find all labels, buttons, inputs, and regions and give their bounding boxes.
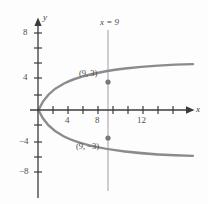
plot-canvas xyxy=(0,0,208,204)
y-tick-label-neg8: −8 xyxy=(19,167,29,176)
x-tick-label-4: 4 xyxy=(65,116,70,125)
y-tick-label-neg4: −4 xyxy=(19,137,29,146)
parabola-figure: 8 4 −4 −8 4 8 12 x y x = 9 (9, 3) (9, −3… xyxy=(0,0,208,204)
x-axis xyxy=(30,106,195,114)
y-tick-label-8: 8 xyxy=(23,28,28,37)
y-axis-label: y xyxy=(43,13,47,22)
x-tick-label-8: 8 xyxy=(95,116,100,125)
y-axis xyxy=(34,18,42,199)
x-tick-label-12: 12 xyxy=(137,116,146,125)
vertical-line-equation-label: x = 9 xyxy=(100,18,119,27)
point-marker-9-3 xyxy=(105,79,110,84)
point-label-9-neg3: (9, −3) xyxy=(76,142,99,151)
x-axis-label: x xyxy=(196,105,200,114)
point-marker-9-neg3 xyxy=(105,135,110,140)
y-tick-label-4: 4 xyxy=(23,73,28,82)
parabola-upper-branch xyxy=(39,64,194,110)
point-label-9-3: (9, 3) xyxy=(79,69,97,78)
parabola-lower-branch xyxy=(39,110,194,156)
